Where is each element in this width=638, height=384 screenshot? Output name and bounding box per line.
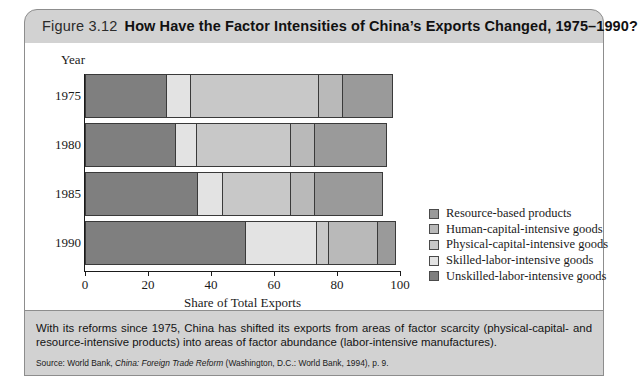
x-axis-tick [211, 272, 212, 276]
y-axis-labels: 1975198019851990 [39, 74, 81, 270]
bar-segment [314, 172, 383, 216]
bar-segment [85, 123, 176, 167]
x-tick-label: 100 [390, 277, 410, 293]
x-axis-tick [274, 272, 275, 276]
bar-segment [196, 123, 291, 167]
source-prefix: Source: World Bank, [36, 358, 115, 368]
source-title: China: Foreign Trade Reform [115, 358, 223, 368]
x-axis-title: Share of Total Exports [85, 295, 400, 311]
figure-number: Figure 3.12 [42, 18, 118, 34]
bar-segment [290, 172, 315, 216]
bar-segment [342, 74, 392, 118]
legend-label: Resource-based products [446, 206, 571, 221]
bar-1985 [85, 172, 383, 216]
bar-segment [328, 221, 378, 265]
bar-segment [318, 74, 343, 118]
figure-container: Figure 3.12How Have the Factor Intensiti… [24, 9, 604, 377]
legend-label: Skilled-labor-intensive goods [446, 253, 593, 268]
figure-title-bar: Figure 3.12How Have the Factor Intensiti… [24, 9, 604, 44]
legend-swatch-icon [429, 224, 439, 234]
x-axis-tick [148, 272, 149, 276]
stacked-bar-chart: Year 1975198019851990 Share of Total Exp… [25, 43, 605, 311]
legend-label: Physical-capital-intensive goods [446, 237, 608, 252]
bar-segment [377, 221, 396, 265]
bar-segment [190, 74, 319, 118]
bar-1975 [85, 74, 393, 118]
x-tick-label: 20 [142, 277, 155, 293]
legend-item-0: Resource-based products [429, 206, 608, 222]
y-tick-label: 1975 [41, 88, 81, 104]
source-suffix: (Washington, D.C.: World Bank, 1994), p.… [223, 358, 388, 368]
figure-note-text: With its reforms since 1975, China has s… [36, 321, 592, 349]
y-tick-label: 1990 [41, 235, 81, 251]
bar-1980 [85, 123, 387, 167]
y-tick-label: 1980 [41, 137, 81, 153]
y-axis-header: Year [61, 52, 85, 68]
x-axis-tick [85, 272, 86, 276]
chart-legend: Resource-based productsHuman-capital-int… [429, 206, 608, 284]
legend-swatch-icon [429, 209, 439, 219]
legend-item-1: Human-capital-intensive goods [429, 222, 608, 238]
x-axis-line [84, 271, 401, 272]
bar-segment [166, 74, 191, 118]
legend-swatch-icon [429, 240, 439, 250]
legend-label: Human-capital-intensive goods [446, 222, 603, 237]
bar-segment [85, 221, 246, 265]
legend-item-4: Unskilled-labor-intensive goods [429, 268, 608, 284]
x-tick-label: 80 [331, 277, 344, 293]
legend-item-2: Physical-capital-intensive goods [429, 237, 608, 253]
figure-source-line: Source: World Bank, China: Foreign Trade… [36, 358, 592, 368]
bar-segment [85, 172, 198, 216]
x-tick-label: 60 [268, 277, 281, 293]
x-axis-tick [400, 272, 401, 276]
bar-segment [175, 123, 197, 167]
legend-swatch-icon [429, 271, 439, 281]
bar-segment [314, 123, 386, 167]
x-axis-tick [337, 272, 338, 276]
bar-segment [197, 172, 222, 216]
legend-item-3: Skilled-labor-intensive goods [429, 253, 608, 269]
y-tick-label: 1985 [41, 186, 81, 202]
bar-1990 [85, 221, 396, 265]
x-tick-label: 40 [205, 277, 218, 293]
figure-title: How Have the Factor Intensities of China… [125, 18, 638, 34]
bar-segment [245, 221, 317, 265]
bar-segment [222, 172, 291, 216]
bar-segment [290, 123, 315, 167]
chart-panel: Year 1975198019851990 Share of Total Exp… [24, 43, 604, 311]
legend-swatch-icon [429, 256, 439, 266]
figure-note-block: With its reforms since 1975, China has s… [24, 310, 604, 376]
bar-segment [85, 74, 167, 118]
plot-area [85, 74, 400, 270]
x-tick-label: 0 [82, 277, 89, 293]
legend-label: Unskilled-labor-intensive goods [446, 269, 607, 284]
